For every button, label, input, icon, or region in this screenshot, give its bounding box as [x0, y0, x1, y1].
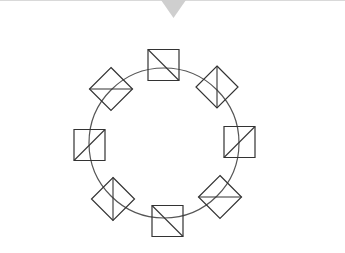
- diagonal-line: [152, 206, 183, 237]
- element-bottom-right: [199, 176, 242, 219]
- diagram-canvas: [0, 0, 345, 253]
- element-right: [224, 127, 255, 158]
- element-top-right: [196, 66, 238, 108]
- element-top: [148, 50, 179, 81]
- element-bottom: [152, 206, 183, 237]
- diagonal-line: [224, 127, 255, 158]
- ring-elements: [74, 50, 255, 237]
- element-top-left: [90, 68, 133, 111]
- diagonal-line: [148, 50, 179, 81]
- element-bottom-left: [92, 178, 135, 221]
- pointer-triangle-icon: [161, 0, 186, 18]
